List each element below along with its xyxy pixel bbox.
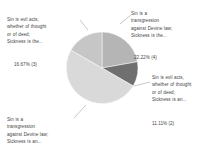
pie-label-top-left: Sin is evil acts, whether of thought or …	[7, 16, 85, 46]
leader-line-top-right	[120, 15, 131, 24]
pie-label-right: Sin is evil acts, whether of thought or …	[152, 74, 222, 104]
pie-label-bottom-left: Sin is a transgression against Devine la…	[7, 116, 87, 146]
pie-chart-figure: Sin is evil acts, whether of thought or …	[0, 0, 222, 160]
pie-label-top-right: Sin is a transgression against Devine la…	[131, 10, 215, 40]
leader-line-right	[134, 82, 150, 86]
pie-percent-top-left: 16.67% (3)	[14, 62, 37, 68]
pie-percent-top-right: 22.22% (4)	[134, 55, 157, 61]
pie-percent-right: 11.11% (2)	[152, 121, 174, 127]
